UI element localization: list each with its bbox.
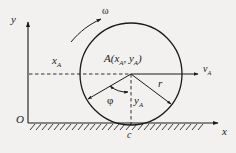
center-point-name: A xyxy=(104,52,111,64)
angular-velocity-arrow xyxy=(71,19,101,42)
y-a-label: yA xyxy=(134,95,143,109)
center-close-paren: ) xyxy=(138,52,142,64)
origin-label: O xyxy=(16,114,24,125)
diagram-canvas xyxy=(0,0,236,153)
radius-label: r xyxy=(158,78,162,89)
y-axis-label: y xyxy=(11,14,16,25)
v-a-label: vA xyxy=(203,64,211,76)
omega-label: ω xyxy=(102,6,109,16)
v-a-subscript: A xyxy=(207,69,211,76)
x-a-label: xA xyxy=(52,55,61,69)
angle-phi-arc xyxy=(110,86,128,92)
rolling-wheel-diagram: y x O ω c r φ xA vA yA A(xA, yA) xyxy=(0,0,236,153)
x-axis-label: x xyxy=(222,126,227,137)
x-a-subscript: A xyxy=(57,61,61,68)
contact-point-label: c xyxy=(127,130,131,140)
ground-hatching xyxy=(30,124,203,130)
phi-label: φ xyxy=(107,95,113,106)
center-point-label: A(xA, yA) xyxy=(104,53,142,67)
y-a-subscript: A xyxy=(139,101,143,108)
